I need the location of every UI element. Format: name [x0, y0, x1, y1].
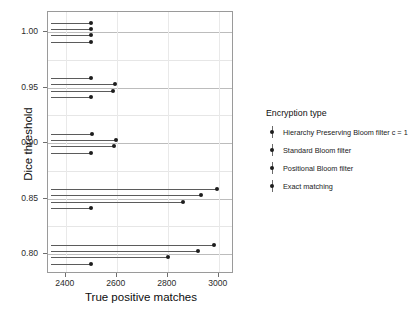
lollipop-stem — [51, 29, 92, 30]
x-tick-label: 2800 — [144, 278, 190, 288]
data-point[interactable] — [166, 255, 170, 259]
data-point[interactable] — [89, 262, 93, 266]
x-axis-ticks: 2400260028003000 — [47, 273, 233, 291]
data-point[interactable] — [111, 89, 115, 93]
lollipop-stem — [51, 208, 92, 209]
data-point[interactable] — [89, 27, 93, 31]
data-point[interactable] — [196, 249, 200, 253]
lollipop-stem — [51, 134, 92, 135]
legend-marker-icon — [266, 143, 280, 157]
x-axis-title: True positive matches — [48, 291, 234, 303]
gridline-minor — [48, 115, 232, 116]
x-tick-label: 3000 — [195, 278, 241, 288]
x-tick-label: 2400 — [42, 278, 88, 288]
data-point[interactable] — [112, 144, 116, 148]
legend-title: Encryption type — [266, 108, 408, 118]
lollipop-stem — [51, 84, 116, 85]
lollipop-stem — [51, 146, 114, 147]
lollipop-stem — [51, 195, 201, 196]
data-point[interactable] — [90, 132, 94, 136]
legend-marker-icon — [266, 161, 280, 175]
data-point[interactable] — [89, 151, 93, 155]
data-point[interactable] — [89, 40, 93, 44]
lollipop-stem — [51, 140, 117, 141]
legend-item-label: Positional Bloom filter — [280, 164, 353, 173]
gridline-major — [48, 143, 232, 144]
gridline-major — [48, 254, 232, 255]
gridline-vertical — [219, 12, 220, 272]
x-tick-mark — [218, 273, 219, 277]
y-tick-label: 0.80 — [0, 248, 38, 258]
gridline-major — [48, 32, 232, 33]
gridline-vertical — [66, 12, 67, 272]
lollipop-stem — [51, 264, 92, 265]
legend-item-label: Exact matching — [280, 182, 333, 191]
gridline-minor — [48, 171, 232, 172]
legend-item[interactable]: Hierarchy Preserving Bloom filter c = 1 — [266, 125, 408, 139]
data-point[interactable] — [114, 138, 118, 142]
gridline-vertical — [117, 12, 118, 272]
gridline-minor — [48, 60, 232, 61]
legend-marker-icon — [266, 125, 280, 139]
lollipop-stem — [51, 91, 114, 92]
y-tick-label: 1.00 — [0, 26, 38, 36]
gridline-major — [48, 88, 232, 89]
y-tick-label: 0.85 — [0, 193, 38, 203]
data-point[interactable] — [89, 21, 93, 25]
y-tick-label: 0.90 — [0, 137, 38, 147]
lollipop-stem — [51, 245, 214, 246]
lollipop-stem — [51, 202, 184, 203]
y-tick-label: 0.95 — [0, 82, 38, 92]
chart-figure: Dice threshold 0.800.850.900.951.00 2400… — [0, 0, 410, 316]
legend-item[interactable]: Standard Bloom filter — [266, 143, 408, 157]
x-tick-mark — [116, 273, 117, 277]
data-point[interactable] — [89, 206, 93, 210]
legend-marker-icon — [266, 179, 280, 193]
legend-item-label: Hierarchy Preserving Bloom filter c = 1 — [280, 128, 408, 137]
lollipop-stem — [51, 189, 218, 190]
legend-item[interactable]: Positional Bloom filter — [266, 161, 408, 175]
gridline-vertical — [168, 12, 169, 272]
lollipop-stem — [51, 257, 168, 258]
data-point[interactable] — [181, 200, 185, 204]
legend: Encryption type Hierarchy Preserving Blo… — [266, 108, 408, 197]
legend-item-label: Standard Bloom filter — [280, 146, 351, 155]
lollipop-stem — [51, 35, 92, 36]
lollipop-stem — [51, 42, 92, 43]
data-point[interactable] — [199, 193, 203, 197]
gridline-major — [48, 199, 232, 200]
legend-item[interactable]: Exact matching — [266, 179, 408, 193]
y-axis-ticks: 0.800.850.900.951.00 — [0, 11, 47, 273]
x-tick-mark — [167, 273, 168, 277]
data-point[interactable] — [89, 76, 93, 80]
lollipop-stem — [51, 97, 92, 98]
legend-items: Hierarchy Preserving Bloom filter c = 1S… — [266, 125, 408, 193]
plot-panel — [47, 11, 233, 273]
lollipop-stem — [51, 78, 92, 79]
x-tick-mark — [65, 273, 66, 277]
lollipop-stem — [51, 251, 198, 252]
lollipop-stem — [51, 153, 92, 154]
data-point[interactable] — [89, 33, 93, 37]
x-tick-label: 2600 — [93, 278, 139, 288]
gridline-minor — [48, 226, 232, 227]
data-point[interactable] — [212, 243, 216, 247]
lollipop-stem — [51, 23, 92, 24]
data-point[interactable] — [89, 95, 93, 99]
